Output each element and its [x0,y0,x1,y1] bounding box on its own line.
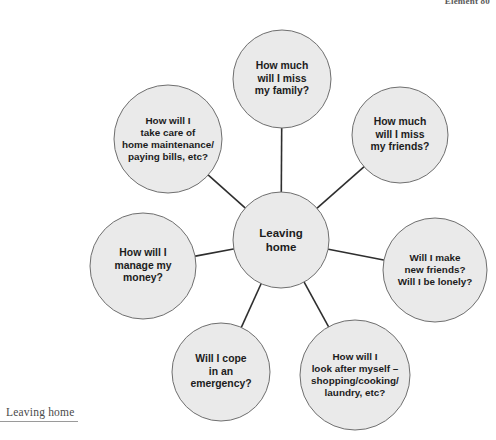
node-circles-group [90,30,487,430]
connector-new-friends-lonely [327,249,385,260]
footer-divider [0,421,78,422]
footer-caption: Leaving home [6,406,75,418]
mind-map-canvas [0,0,496,440]
connector-look-after-myself [304,281,329,327]
node-circle-miss-friends[interactable] [352,87,448,183]
connector-home-maintenance [208,174,246,208]
connector-miss-friends [316,166,365,209]
node-circle-new-friends-lonely[interactable] [383,218,487,322]
connector-cope-emergency [241,283,262,329]
node-circle-miss-family[interactable] [233,30,331,128]
mind-map-diagram: Element 80 How much will I miss my famil… [0,0,496,440]
node-circle-manage-money[interactable] [90,213,196,319]
node-circle-home-maintenance[interactable] [114,85,222,193]
node-circle-cope-emergency[interactable] [172,323,270,421]
connector-manage-money [194,249,235,257]
node-circle-leaving-home[interactable] [233,192,329,288]
node-circle-look-after-myself[interactable] [300,320,410,430]
